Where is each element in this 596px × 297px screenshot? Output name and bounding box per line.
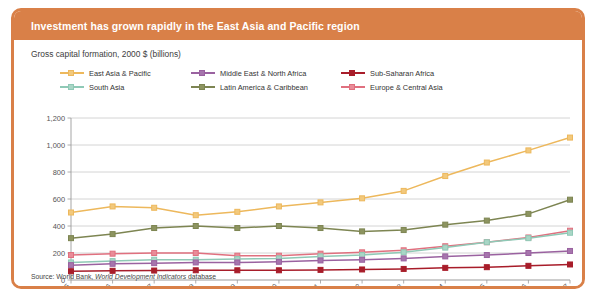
data-point-marker [443,174,448,179]
data-point-marker [401,256,406,261]
data-point-marker [318,267,323,272]
data-point-marker [110,204,115,209]
legend-marker-icon [191,82,215,92]
source-note: Source: World Bank, World Development In… [31,273,216,280]
legend-marker-icon [60,82,84,92]
x-axis-tick-label: 1997 [136,282,154,289]
legend-label: East Asia & Pacific [89,69,151,78]
chart-legend: East Asia & Pacific Middle East & North … [60,66,510,94]
data-point-marker [360,257,365,262]
x-axis-tick-label: 1998 [178,282,196,289]
series-east-asia-pacific [69,135,573,218]
data-point-marker [526,148,531,153]
legend-item-sub-saharan-africa[interactable]: Sub-Saharan Africa [341,68,491,78]
data-point-marker [484,160,489,165]
data-point-marker [235,209,240,214]
data-point-marker [152,226,157,231]
data-point-marker [443,222,448,227]
data-point-marker [401,266,406,271]
data-point-marker [568,262,573,267]
x-axis-tick-label: 2000 [261,282,279,289]
data-point-marker [484,265,489,270]
data-point-marker [526,211,531,216]
y-axis-tick-label: 1,200 [47,114,66,123]
x-axis-tick-label: 2006 [511,282,529,289]
data-point-marker [401,228,406,233]
figure-title-bar: Investment has grown rapidly in the East… [14,11,582,40]
figure-frame: Investment has grown rapidly in the East… [11,8,585,289]
data-point-marker [443,265,448,270]
figure-title: Investment has grown rapidly in the East… [31,20,360,32]
x-axis-tick-label: 2001 [303,282,321,289]
data-point-marker [235,226,240,231]
data-point-marker [568,135,573,140]
data-point-marker [69,236,74,241]
data-point-marker [193,213,198,218]
legend-item-europe-central-asia[interactable]: Europe & Central Asia [341,82,491,92]
legend-label: Europe & Central Asia [370,83,443,92]
data-point-marker [526,263,531,268]
data-point-marker [568,197,573,202]
data-point-marker [484,218,489,223]
legend-label: Middle East & North Africa [220,69,306,78]
source-prefix: Source: World Bank, [31,273,95,280]
data-point-marker [443,245,448,250]
legend-item-south-asia[interactable]: South Asia [60,82,191,92]
data-point-marker [318,258,323,263]
figure-root: Investment has grown rapidly in the East… [0,0,596,297]
x-axis-tick-label: 1999 [220,282,238,289]
data-point-marker [152,251,157,256]
legend-item-latin-america-caribbean[interactable]: Latin America & Caribbean [191,82,341,92]
data-point-marker [193,251,198,256]
data-point-marker [568,230,573,235]
data-point-marker [276,268,281,273]
legend-marker-icon [341,82,365,92]
y-axis-tick-label: 1,000 [47,141,66,150]
data-point-marker [69,210,74,215]
data-point-marker [484,240,489,245]
data-point-marker [110,251,115,256]
data-point-marker [318,226,323,231]
legend-item-east-asia-pacific[interactable]: East Asia & Pacific [60,68,191,78]
data-point-marker [568,248,573,253]
data-point-marker [526,251,531,256]
data-point-marker [235,260,240,265]
data-point-marker [152,205,157,210]
x-axis-tick-label: 2002 [344,282,362,289]
data-point-marker [276,259,281,264]
figure-body: Gross capital formation, 2000 $ (billion… [14,40,582,289]
data-point-marker [360,267,365,272]
x-axis-tick-label: 2005 [469,282,487,289]
legend-item-middle-east-north-africa[interactable]: Middle East & North Africa [191,68,341,78]
data-point-marker [484,253,489,258]
data-point-marker [235,268,240,273]
x-axis-tick-label: 2007 [552,282,570,289]
source-suffix: database [186,273,216,280]
data-point-marker [110,232,115,237]
data-point-marker [360,229,365,234]
data-point-marker [152,261,157,266]
series-line [71,200,570,238]
x-axis-tick-label: 2004 [427,282,445,289]
legend-label: Sub-Saharan Africa [370,69,434,78]
legend-marker-icon [60,68,84,78]
data-point-marker [360,196,365,201]
data-point-marker [69,263,74,268]
source-italic: World Development Indicators [95,273,186,280]
data-point-marker [276,204,281,209]
y-axis-tick-label: 600 [53,195,65,204]
y-axis-tick-label: 200 [53,249,65,258]
data-point-marker [318,200,323,205]
data-point-marker [69,253,74,258]
legend-marker-icon [341,68,365,78]
x-axis-tick-label: 1996 [95,282,113,289]
x-axis-tick-label: 2003 [386,282,404,289]
data-point-marker [110,261,115,266]
data-point-marker [443,254,448,259]
legend-marker-icon [191,68,215,78]
data-point-marker [193,260,198,265]
data-point-marker [193,224,198,229]
data-point-marker [276,224,281,229]
y-axis-tick-label: 400 [53,222,65,231]
data-point-marker [401,250,406,255]
